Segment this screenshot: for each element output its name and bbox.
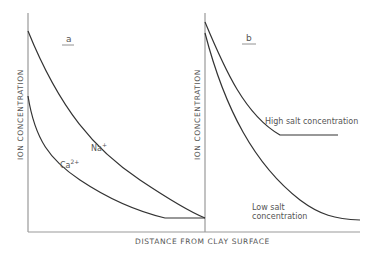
x-axis-label: DISTANCE FROM CLAY SURFACE xyxy=(135,237,270,246)
curve-na xyxy=(28,31,205,218)
curve-high-salt-label: High salt concentration xyxy=(265,117,358,126)
curve-na-label-main: Na xyxy=(91,144,102,153)
curve-ca xyxy=(28,96,205,218)
curve-low-salt-label-line1: Low salt xyxy=(252,203,285,212)
panel-a-label: a xyxy=(66,34,72,44)
curve-low-salt xyxy=(205,33,360,220)
curve-ca-label: Ca2+ xyxy=(60,158,79,170)
panel-b-label: b xyxy=(246,33,252,43)
curve-na-label-sup: + xyxy=(102,141,107,148)
panel-a-y-axis-label: ION CONCENTRATION xyxy=(16,69,25,160)
panel-b-y-axis-label: ION CONCENTRATION xyxy=(193,69,202,160)
curve-ca-label-main: Ca xyxy=(60,161,71,170)
curve-ca-label-sup: 2+ xyxy=(71,158,80,165)
diagram-canvas: a b ION CONCENTRATION ION CONCENTRATION … xyxy=(0,0,380,255)
curve-low-salt-label-line2: concentration xyxy=(252,212,307,221)
